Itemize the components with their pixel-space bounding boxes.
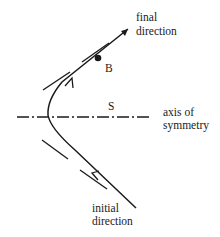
lower-asymptote-segment-1: [42, 140, 68, 159]
axis-label-line2: symmetry: [163, 119, 209, 132]
final-direction-label-line2: direction: [136, 25, 177, 37]
axis-label-line1: axis of: [163, 106, 194, 118]
point-b-label: B: [105, 62, 113, 74]
final-arrow-head-icon: [121, 29, 128, 36]
trajectory-curve: [48, 29, 136, 208]
initial-direction-label-line1: initial: [92, 202, 119, 214]
upper-asymptote-segment-1: [43, 72, 70, 90]
final-direction-label-line1: final: [136, 11, 157, 23]
initial-direction-label-line2: direction: [92, 215, 133, 227]
trajectory-diagram: B S final direction axis of symmetry ini…: [0, 0, 220, 237]
point-s-label: S: [108, 100, 114, 112]
point-b-dot: [95, 55, 102, 62]
